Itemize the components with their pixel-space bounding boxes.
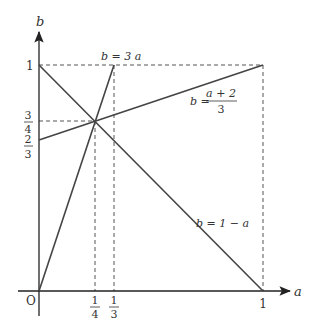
label-b-a-plus-2-over-3: b = a + 2 3 — [190, 87, 237, 116]
y-tick-1: 1 — [26, 59, 34, 73]
svg-text:2: 2 — [25, 133, 32, 146]
origin-label: O — [26, 294, 36, 308]
x-tick-1-4: 1 4 — [90, 294, 100, 321]
svg-text:a + 2: a + 2 — [206, 87, 236, 100]
x-tick-1: 1 — [259, 297, 267, 311]
y-tick-2-3: 2 3 — [24, 133, 33, 161]
svg-text:3: 3 — [25, 148, 32, 161]
svg-text:3: 3 — [111, 308, 118, 321]
svg-text:1: 1 — [92, 294, 99, 307]
label-b-1-minus-a: b = 1 − a — [196, 217, 249, 230]
line-b-a-plus-2-over-3 — [39, 65, 263, 140]
x-tick-1-3: 1 3 — [109, 294, 119, 321]
svg-text:3: 3 — [25, 109, 32, 122]
y-tick-3-4: 3 4 — [24, 109, 33, 136]
svg-text:1: 1 — [111, 294, 118, 307]
diagram-canvas: b a O 1 3 4 2 3 1 4 1 3 1 b = 3 a b = a … — [0, 0, 317, 330]
b-axis-label: b — [36, 14, 44, 29]
a-axis-label: a — [294, 284, 302, 299]
label-b-3a: b = 3 a — [101, 50, 141, 63]
line-b-3a — [39, 65, 114, 291]
svg-text:4: 4 — [92, 308, 99, 321]
svg-text:3: 3 — [218, 103, 225, 116]
